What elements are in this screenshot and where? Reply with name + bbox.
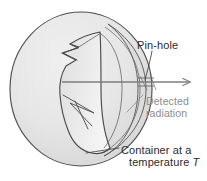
temperature-word: temperature xyxy=(129,156,193,168)
container-temperature-label: Container at a temperature T xyxy=(121,144,199,169)
detected-radiation-label: Detected radiation xyxy=(146,96,189,120)
cavity-radiator-figure: Pin-hole Detected radiation Container at… xyxy=(0,0,207,181)
container-label-line-1: Container at a xyxy=(121,144,192,156)
detected-radiation-line-2: radiation xyxy=(146,107,187,119)
detected-radiation-line-1: Detected xyxy=(146,95,189,107)
pin-hole-label: Pin-hole xyxy=(137,39,178,51)
container-label-line-2: temperature T xyxy=(121,156,199,168)
temperature-symbol: T xyxy=(193,156,200,168)
